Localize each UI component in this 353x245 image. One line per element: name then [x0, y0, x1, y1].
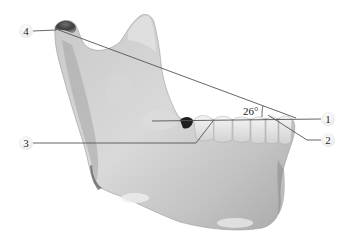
mandible-diagram: 26° 1 2 3 4	[0, 0, 353, 245]
label-1: 1	[321, 112, 335, 126]
label-3: 3	[19, 136, 33, 150]
mandible-illustration	[0, 0, 353, 245]
label-2: 2	[321, 133, 335, 147]
angle-label: 26°	[243, 105, 258, 117]
leader-line-4	[33, 30, 56, 31]
label-4: 4	[19, 24, 33, 38]
angle-arc	[262, 106, 263, 117]
